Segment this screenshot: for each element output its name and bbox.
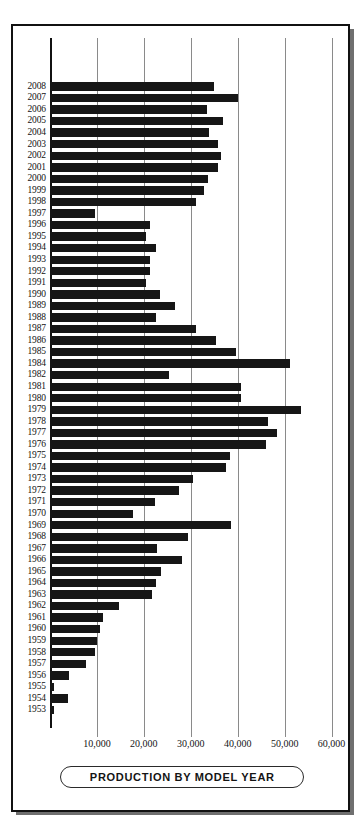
bar [50, 510, 133, 518]
bar [50, 186, 204, 194]
bar-row: 1973 [50, 474, 341, 486]
bar-row: 1989 [50, 300, 341, 312]
bar-year-label: 1970 [27, 509, 46, 519]
bar-year-label: 1964 [27, 578, 46, 588]
bar-row: 1995 [50, 231, 341, 243]
bar [50, 290, 160, 298]
x-tick-label: 50,000 [271, 738, 299, 749]
bar-row: 1970 [50, 508, 341, 520]
bar-row: 2004 [50, 127, 341, 139]
bar [50, 152, 221, 160]
bar-row: 1997 [50, 208, 341, 220]
bar-row: 1969 [50, 520, 341, 532]
bar-row: 1990 [50, 289, 341, 301]
bar [50, 348, 236, 356]
bar [50, 613, 103, 621]
bar-year-label: 1979 [27, 405, 46, 415]
bar [50, 648, 95, 656]
bar [50, 625, 100, 633]
bar-year-label: 1996 [27, 220, 46, 230]
bar [50, 267, 150, 275]
x-tick-label: 10,000 [83, 738, 111, 749]
bar-row: 1968 [50, 531, 341, 543]
bar [50, 198, 196, 206]
bar-row: 1984 [50, 358, 341, 370]
x-tick-mark [191, 728, 192, 737]
bar-series: 2008200720062005200420032002200120001999… [50, 81, 341, 716]
production-by-model-year-chart: 2008200720062005200420032002200120001999… [11, 24, 350, 812]
bar [50, 544, 157, 552]
bar-year-label: 1973 [27, 474, 46, 484]
bar-year-label: 1980 [27, 394, 46, 404]
bar-row: 1998 [50, 196, 341, 208]
bar [50, 244, 156, 252]
bar-row: 1982 [50, 370, 341, 382]
bar-year-label: 1981 [27, 382, 46, 392]
x-tick-label: 60,000 [318, 738, 346, 749]
chart-title: PRODUCTION BY MODEL YEAR [90, 771, 275, 783]
bar [50, 452, 230, 460]
bar [50, 383, 241, 391]
bar [50, 706, 54, 714]
bar-year-label: 1953 [27, 705, 46, 715]
bar-year-label: 1959 [27, 636, 46, 646]
bar [50, 602, 119, 610]
bar [50, 232, 146, 240]
bar-year-label: 1969 [27, 521, 46, 531]
x-tick-label: 30,000 [177, 738, 205, 749]
bar-row: 1991 [50, 277, 341, 289]
bar [50, 498, 155, 506]
bar-row: 2008 [50, 81, 341, 93]
bar-year-label: 2000 [27, 174, 46, 184]
x-tick-mark [332, 728, 333, 737]
bar-row: 1975 [50, 451, 341, 463]
bar-row: 2002 [50, 150, 341, 162]
bar-row: 1979 [50, 404, 341, 416]
bar-year-label: 1988 [27, 313, 46, 323]
bar-row: 2003 [50, 139, 341, 151]
bar [50, 463, 226, 471]
bar-row: 2007 [50, 93, 341, 105]
bar-year-label: 1963 [27, 590, 46, 600]
bar-year-label: 1982 [27, 370, 46, 380]
bar [50, 521, 231, 529]
bar-row: 2001 [50, 162, 341, 174]
bar [50, 371, 169, 379]
bar-row: 1954 [50, 693, 341, 705]
bar [50, 567, 161, 575]
bar-row: 1953 [50, 705, 341, 717]
bar [50, 336, 216, 344]
bar-row: 1956 [50, 670, 341, 682]
bar-row: 1996 [50, 220, 341, 232]
bar-year-label: 1974 [27, 463, 46, 473]
bar [50, 140, 218, 148]
bar-year-label: 1965 [27, 567, 46, 577]
bar [50, 163, 218, 171]
bar-year-label: 1992 [27, 267, 46, 277]
bar-row: 1957 [50, 658, 341, 670]
chart-title-plate: PRODUCTION BY MODEL YEAR [60, 766, 304, 788]
bar-row: 1971 [50, 497, 341, 509]
x-axis: 10,00020,00030,00040,00050,00060,000 [50, 728, 341, 754]
bar-year-label: 1990 [27, 290, 46, 300]
bar-year-label: 1997 [27, 209, 46, 219]
bar [50, 82, 214, 90]
bar [50, 128, 209, 136]
bar-year-label: 1991 [27, 278, 46, 288]
bar-year-label: 1975 [27, 451, 46, 461]
bar-year-label: 1993 [27, 255, 46, 265]
bar [50, 313, 156, 321]
x-tick-mark [285, 728, 286, 737]
bar-year-label: 1958 [27, 648, 46, 658]
bar-row: 1962 [50, 601, 341, 613]
bar [50, 660, 86, 668]
bar [50, 475, 193, 483]
bar-year-label: 1955 [27, 682, 46, 692]
bar-row: 1986 [50, 335, 341, 347]
bar-row: 1955 [50, 681, 341, 693]
bar-year-label: 2005 [27, 116, 46, 126]
bar-row: 1981 [50, 381, 341, 393]
bar-year-label: 1962 [27, 601, 46, 611]
bar-year-label: 1968 [27, 532, 46, 542]
x-tick-mark [238, 728, 239, 737]
